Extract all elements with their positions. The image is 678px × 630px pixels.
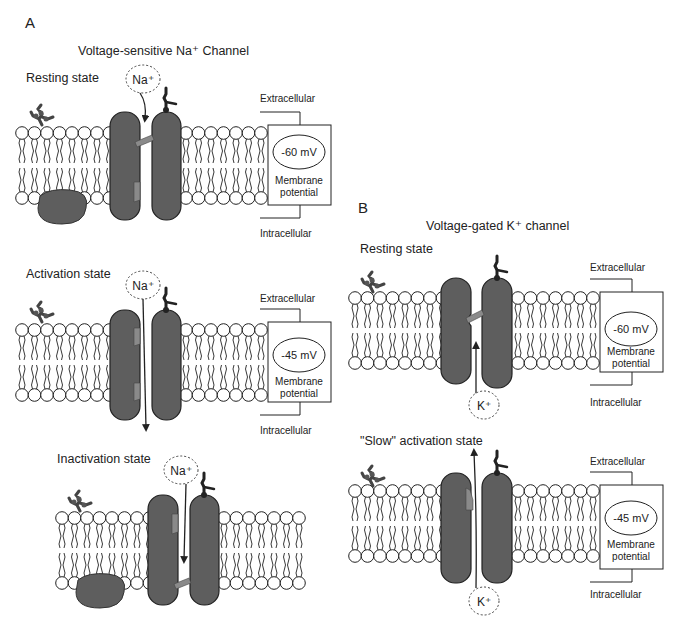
anchor-icon [201,473,214,498]
extracellular-label: Extracellular [590,456,646,467]
cytoplasmic-protein [76,574,125,608]
glycolipid-icon [31,105,53,125]
voltage-value: -60 mV [281,146,317,158]
panel-a-title: Voltage-sensitive Na⁺ Channel [78,44,249,58]
channel-subunit-left [148,495,178,605]
lipid-bilayer-left [349,485,449,563]
intracellular-label: Intracellular [260,425,312,436]
lipid-bilayer-right [180,324,268,402]
channel-subunit-left [110,112,140,220]
na-activation-state: Activation state Na⁺ Extracellular -45 m… [16,267,331,436]
state-label: Activation state [26,267,111,281]
state-label: Resting state [26,71,99,85]
glycolipid-icon [69,491,91,511]
ion-label: K⁺ [477,595,491,609]
glycolipid-icon [362,272,384,292]
na-resting-state: Resting state Na⁺ Extracellular -60 mV M… [16,65,331,239]
channel-subunit-right [152,310,181,420]
ion-flow-arrow [143,299,146,428]
intracellular-label: Intracellular [590,589,642,600]
inactivation-gate [134,182,140,202]
ion-channel-diagram: A Voltage-sensitive Na⁺ Channel Resting … [0,0,678,630]
lipid-bilayer-right [218,512,306,590]
potential-label: potential [280,187,318,198]
glycolipid-icon [362,466,384,486]
panel-b-title: Voltage-gated K⁺ channel [426,219,569,233]
extracellular-label: Extracellular [590,262,646,273]
channel-subunit-left [441,278,471,384]
channel-subunit-right [152,112,181,220]
ion-label: Na⁺ [132,73,153,87]
ion-flow-arrow [474,452,476,588]
ion-label: Na⁺ [170,464,191,478]
anchor-icon [163,288,176,313]
activation-gate [134,328,140,346]
potential-label: Membrane [607,346,655,357]
state-label: Inactivation state [57,452,151,466]
extracellular-label: Extracellular [260,293,316,304]
ion-arrow-blocked [184,484,186,560]
channel-subunit-right [482,278,512,388]
gate [466,488,473,510]
k-slow-activation-state: "Slow" activation state K⁺ Extracellular… [349,434,663,615]
voltage-value: -60 mV [613,323,649,335]
intracellular-label: Intracellular [260,228,312,239]
lipid-bilayer-right [512,292,600,370]
ion-arrow-blocked [140,93,145,119]
lipid-bilayer-right [180,127,268,205]
channel-subunit-right [482,473,512,583]
activation-gate [172,514,178,534]
lipid-bilayer-right [512,485,600,563]
na-inactivation-state: Inactivation state Na⁺ [56,452,306,608]
potential-label: potential [280,388,318,399]
state-label: Resting state [360,242,433,256]
potential-label: potential [612,358,650,369]
potential-label: Membrane [607,539,655,550]
extracellular-label: Extracellular [260,93,316,104]
channel-subunit-left [110,310,140,420]
ion-label: Na⁺ [132,279,153,293]
inactivation-gate [134,383,140,401]
potential-label: potential [612,551,650,562]
lipid-bilayer-left [16,324,116,402]
potential-label: Membrane [275,376,323,387]
lipid-bilayer-left [349,292,449,370]
glycolipid-icon [31,302,53,322]
anchor-icon [494,256,507,281]
voltage-value: -45 mV [281,349,317,361]
anchor-icon [494,451,507,476]
k-resting-state: Resting state K⁺ Extracellular -60 mV Me… [349,242,663,419]
state-label: "Slow" activation state [360,434,483,448]
panel-a-letter: A [25,14,35,31]
intracellular-label: Intracellular [590,397,642,408]
channel-subunit-right [190,495,219,605]
voltage-value: -45 mV [613,512,649,524]
potential-label: Membrane [275,175,323,186]
anchor-icon [163,88,176,113]
cytoplasmic-protein [38,190,87,224]
ion-label: K⁺ [477,399,491,413]
panel-b-letter: B [358,199,368,216]
